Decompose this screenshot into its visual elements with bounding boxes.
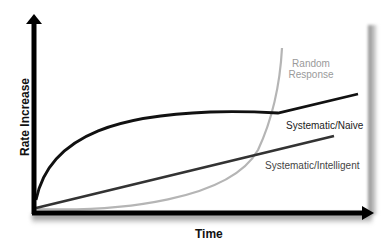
x-axis-arrow-icon bbox=[362, 206, 374, 220]
systematic-naive-curve bbox=[36, 94, 358, 200]
random-label-line1: Random bbox=[286, 58, 336, 69]
random-response-curve bbox=[36, 48, 282, 209]
systematic-naive-label: Systematic/Naive bbox=[286, 120, 363, 131]
random-label-line2: Response bbox=[286, 69, 336, 80]
systematic-intelligent-label: Systematic/Intelligent bbox=[265, 160, 360, 171]
y-axis-arrow-icon bbox=[26, 14, 42, 24]
systematic-intelligent-line bbox=[36, 136, 334, 208]
x-axis-label: Time bbox=[195, 227, 223, 241]
random-response-label: Random Response bbox=[286, 58, 336, 80]
y-axis-label: Rate Increase bbox=[18, 72, 32, 162]
